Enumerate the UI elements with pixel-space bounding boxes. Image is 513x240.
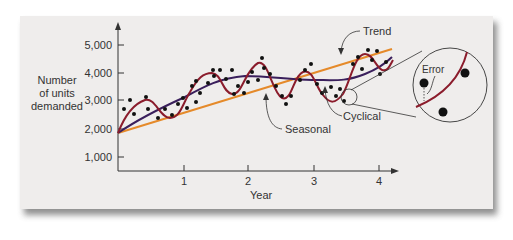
x-tick-label: 2 xyxy=(238,175,258,187)
annotation-error: Error xyxy=(422,64,444,75)
x-tick-label: 4 xyxy=(369,175,389,187)
annotation-cyclical: Cyclical xyxy=(343,110,381,122)
y-tick-label: 2,000 xyxy=(68,123,112,135)
x-axis-arrow-icon xyxy=(391,168,399,174)
x-axis-label: Year xyxy=(250,189,272,201)
x-tick-label: 3 xyxy=(304,175,324,187)
error-magnifier xyxy=(413,48,487,122)
axes xyxy=(118,26,395,171)
annotation-trend: Trend xyxy=(363,25,391,37)
cyclical-arrow-icon xyxy=(322,86,328,93)
y-tick-label: 3,000 xyxy=(68,94,112,106)
seasonal-arrow-icon xyxy=(263,93,269,100)
annotation-seasonal: Seasonal xyxy=(285,123,331,135)
y-tick-label: 5,000 xyxy=(68,39,112,51)
trend-arrow-icon xyxy=(338,48,344,55)
y-tick-label: 4,000 xyxy=(68,67,112,79)
y-tick-label: 1,000 xyxy=(68,151,112,163)
y-axis-arrow-icon xyxy=(115,22,121,30)
x-tick-label: 1 xyxy=(174,175,194,187)
